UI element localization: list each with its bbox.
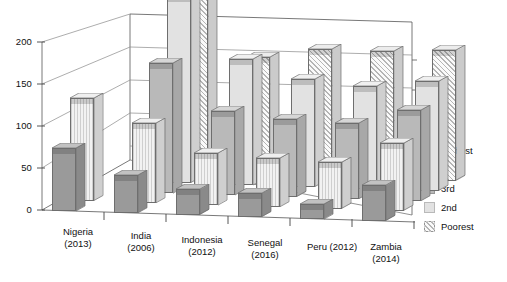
bar-top-face — [132, 118, 167, 125]
bar-top-face — [211, 106, 246, 113]
bar-top-face — [176, 184, 211, 191]
x-tick-label-indonesia: Indonesia (2012) — [167, 234, 237, 257]
chart-figure: 200 150 100 50 0 Nigeria (2013) India (2… — [0, 0, 507, 282]
bar-side-outline — [218, 148, 229, 207]
bar-side-outline — [235, 106, 246, 197]
bar-top-shade — [168, 0, 190, 2]
x-label-year: (2012) — [167, 246, 237, 258]
bar-richest-3 — [238, 193, 262, 217]
y-tick-label: 0 — [18, 204, 32, 215]
legend-item-2nd[interactable]: 2nd — [424, 198, 504, 217]
x-tick-label-india: India (2006) — [112, 230, 170, 253]
x-label-name: Nigeria — [47, 226, 109, 238]
legend-label: 2nd — [441, 202, 457, 213]
bar-top-face — [114, 170, 149, 177]
bar-top-face — [52, 143, 87, 150]
bar-top-face — [291, 74, 326, 81]
bar-side-outline — [94, 93, 105, 202]
x-label-year: (2016) — [232, 249, 298, 261]
bar-top-face — [256, 153, 291, 160]
bar-richest-0 — [52, 148, 76, 211]
x-label-year: (2013) — [47, 238, 109, 250]
bar-side-outline — [173, 58, 184, 195]
bar-top-face — [415, 76, 450, 83]
bar-side-outline — [439, 76, 450, 192]
x-tick-label-zambia: Zambia (2014) — [355, 241, 417, 264]
y-tick-label: 50 — [12, 162, 32, 173]
legend-item-poorest[interactable]: Poorest — [424, 217, 504, 236]
bar-front-face — [238, 193, 262, 217]
x-tick-label-senegal: Senegal (2016) — [232, 237, 298, 260]
bar-top-face — [70, 93, 105, 100]
bar-side-outline — [421, 105, 432, 203]
y-tick-label: 200 — [6, 36, 32, 47]
bar-side-outline — [280, 153, 291, 209]
bar-top-face — [149, 58, 184, 65]
bar-side-outline — [404, 138, 415, 212]
bar-top-face — [432, 45, 467, 52]
bar-top-face — [273, 114, 308, 121]
bar-top-face — [370, 46, 405, 53]
bar-richest-1 — [114, 175, 138, 213]
bar-top-face — [362, 180, 397, 187]
bar-side-outline — [156, 118, 167, 205]
x-label-name: Zambia — [355, 241, 417, 253]
bar-top-face — [353, 81, 388, 88]
bar-top-face — [308, 44, 343, 51]
bar-top-face — [335, 118, 370, 125]
bar-top-face — [318, 157, 353, 164]
legend-label: Poorest — [441, 221, 474, 232]
x-axis-line — [42, 210, 415, 222]
bar-top-face — [229, 54, 264, 61]
bar-side-outline — [297, 114, 308, 198]
bar-front-face — [52, 148, 76, 211]
x-label-name: India — [112, 230, 170, 242]
bar-side-outline — [456, 45, 467, 182]
y-ticks — [37, 42, 45, 210]
bar-richest-4 — [300, 204, 324, 219]
bar-side-outline — [342, 157, 353, 210]
x-label-name: Indonesia — [167, 234, 237, 246]
bar-top-face — [380, 138, 415, 145]
bar-richest-2 — [176, 189, 200, 214]
bar-top-face — [300, 199, 335, 206]
bar-top-face — [238, 188, 273, 195]
legend-swatch-icon — [424, 202, 435, 213]
bar-top-face — [194, 148, 229, 155]
legend-swatch-icon — [424, 221, 435, 232]
y-tick-label: 150 — [6, 78, 32, 89]
y-tick-label: 100 — [6, 120, 32, 131]
bar-front-face — [114, 175, 138, 213]
bar-front-face — [176, 189, 200, 214]
x-tick-label-nigeria: Nigeria (2013) — [47, 226, 109, 249]
x-label-name: Senegal — [232, 237, 298, 249]
bar-front-face — [362, 185, 386, 220]
bar-top-face — [397, 105, 432, 112]
bar-side-outline — [76, 143, 87, 213]
bar-richest-5 — [362, 185, 386, 220]
x-label-year: (2014) — [355, 253, 417, 265]
bar-front-face — [300, 204, 324, 219]
x-label-year: (2006) — [112, 242, 170, 254]
